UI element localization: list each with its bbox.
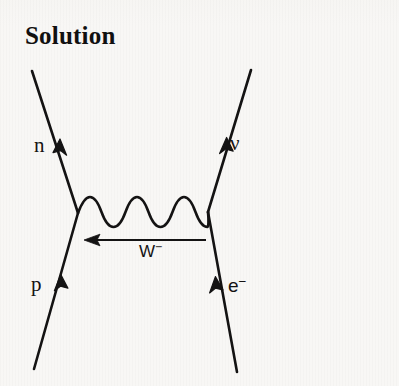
electron-symbol: e — [228, 275, 239, 296]
feynman-diagram-canvas — [0, 0, 399, 386]
particle-label-proton: p — [31, 272, 42, 297]
particle-label-electron: e− — [228, 274, 247, 297]
particle-label-wboson: W− — [139, 240, 162, 262]
electron-charge-superscript: − — [239, 274, 247, 289]
w-boson-wavy-line — [78, 197, 208, 227]
wboson-symbol: W — [139, 242, 155, 261]
proton-arrowhead-icon — [54, 275, 68, 291]
particle-label-neutrino: ν — [230, 131, 240, 156]
wboson-charge-superscript: − — [155, 240, 162, 254]
page-title: Solution — [25, 22, 116, 50]
particle-label-neutron: n — [34, 133, 45, 158]
